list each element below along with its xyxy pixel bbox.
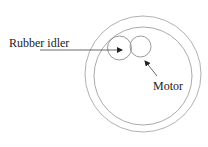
motor-label: Motor xyxy=(153,79,183,93)
outer-rim-circle xyxy=(85,16,201,132)
rubber-idler-circle xyxy=(108,36,132,60)
rubber-idler-label: Rubber idler xyxy=(9,36,69,50)
idler-drive-diagram: Rubber idler Motor xyxy=(0,0,208,147)
motor-pulley-circle xyxy=(130,36,151,57)
motor-leader-arrow xyxy=(145,61,157,76)
inner-rim-circle xyxy=(94,27,192,125)
